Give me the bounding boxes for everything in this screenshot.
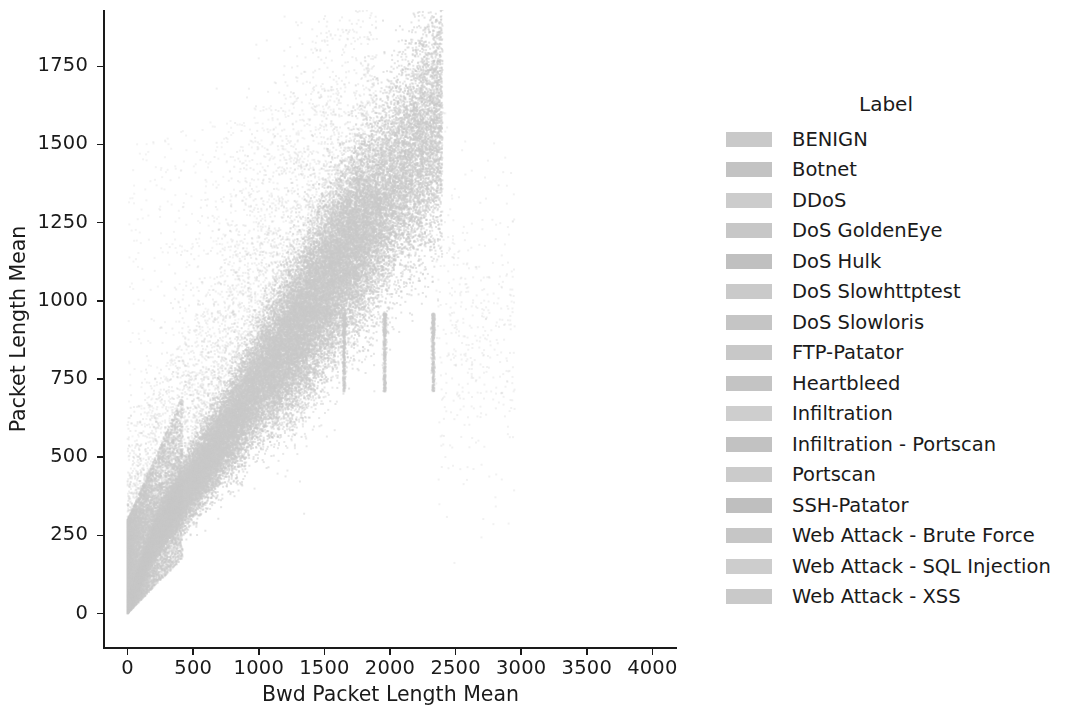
x-tick-mark xyxy=(192,649,194,655)
y-tick-mark xyxy=(97,300,103,302)
scatter-plot-figure: 02505007501000125015001750 0500100015002… xyxy=(0,0,1086,713)
y-tick-mark xyxy=(97,222,103,224)
legend-swatch xyxy=(726,437,772,452)
legend-item-label: Botnet xyxy=(792,160,857,180)
legend-swatch xyxy=(726,467,772,482)
legend-item[interactable]: Web Attack - XSS xyxy=(726,582,1076,613)
legend-item[interactable]: DoS Slowhttptest xyxy=(726,277,1076,308)
legend-swatch xyxy=(726,284,772,299)
x-tick-label: 4000 xyxy=(602,656,702,679)
x-axis-label: Bwd Packet Length Mean xyxy=(104,682,677,706)
legend-item-label: DoS Slowhttptest xyxy=(792,282,961,302)
x-tick-mark xyxy=(520,649,522,655)
y-tick-mark xyxy=(97,144,103,146)
x-tick-mark xyxy=(258,649,260,655)
plot-area xyxy=(104,10,676,648)
y-tick-mark xyxy=(97,456,103,458)
legend-item[interactable]: FTP-Patator xyxy=(726,338,1076,369)
x-tick-mark xyxy=(389,649,391,655)
legend-item-label: FTP-Patator xyxy=(792,343,903,363)
legend-item-label: Infiltration - Portscan xyxy=(792,435,996,455)
legend-swatch xyxy=(726,528,772,543)
legend-item[interactable]: DoS Slowloris xyxy=(726,307,1076,338)
legend-swatch xyxy=(726,223,772,238)
legend-item-label: DoS Slowloris xyxy=(792,313,924,333)
legend: Label BENIGNBotnetDDoSDoS GoldenEyeDoS H… xyxy=(726,92,1076,612)
legend-swatch xyxy=(726,162,772,177)
legend-item-label: Web Attack - Brute Force xyxy=(792,526,1035,546)
legend-item-label: Portscan xyxy=(792,465,876,485)
legend-swatch xyxy=(726,498,772,513)
y-tick-mark xyxy=(97,535,103,537)
legend-item[interactable]: Web Attack - Brute Force xyxy=(726,521,1076,552)
y-tick-mark xyxy=(97,613,103,615)
legend-item[interactable]: Botnet xyxy=(726,155,1076,186)
legend-item[interactable]: Heartbleed xyxy=(726,368,1076,399)
legend-item[interactable]: Infiltration xyxy=(726,399,1076,430)
legend-swatch xyxy=(726,345,772,360)
legend-item-label: SSH-Patator xyxy=(792,496,908,516)
x-tick-mark xyxy=(324,649,326,655)
legend-item-label: Web Attack - XSS xyxy=(792,587,961,607)
legend-item[interactable]: DoS GoldenEye xyxy=(726,216,1076,247)
legend-swatch xyxy=(726,193,772,208)
legend-item-label: BENIGN xyxy=(792,130,868,150)
legend-item-label: DDoS xyxy=(792,191,846,211)
y-axis-spine xyxy=(103,10,105,649)
legend-swatch xyxy=(726,132,772,147)
legend-title: Label xyxy=(726,92,1046,116)
legend-item[interactable]: DDoS xyxy=(726,185,1076,216)
legend-item-label: Infiltration xyxy=(792,404,893,424)
y-tick-mark xyxy=(97,66,103,68)
legend-swatch xyxy=(726,559,772,574)
legend-swatch xyxy=(726,254,772,269)
legend-swatch xyxy=(726,315,772,330)
legend-item[interactable]: BENIGN xyxy=(726,124,1076,155)
legend-items: BENIGNBotnetDDoSDoS GoldenEyeDoS HulkDoS… xyxy=(726,124,1076,612)
y-axis-label: Packet Length Mean xyxy=(6,10,33,648)
legend-swatch xyxy=(726,406,772,421)
legend-swatch xyxy=(726,376,772,391)
legend-item-label: DoS Hulk xyxy=(792,252,881,272)
scatter-points-layer xyxy=(104,10,676,648)
legend-item-label: DoS GoldenEye xyxy=(792,221,943,241)
x-tick-mark xyxy=(652,649,654,655)
legend-swatch xyxy=(726,589,772,604)
x-tick-mark xyxy=(127,649,129,655)
x-tick-mark xyxy=(586,649,588,655)
legend-item-label: Heartbleed xyxy=(792,374,900,394)
legend-item[interactable]: Web Attack - SQL Injection xyxy=(726,551,1076,582)
legend-item[interactable]: Portscan xyxy=(726,460,1076,491)
y-tick-mark xyxy=(97,378,103,380)
legend-item-label: Web Attack - SQL Injection xyxy=(792,557,1051,577)
legend-item[interactable]: Infiltration - Portscan xyxy=(726,429,1076,460)
legend-item[interactable]: DoS Hulk xyxy=(726,246,1076,277)
x-tick-mark xyxy=(455,649,457,655)
legend-item[interactable]: SSH-Patator xyxy=(726,490,1076,521)
